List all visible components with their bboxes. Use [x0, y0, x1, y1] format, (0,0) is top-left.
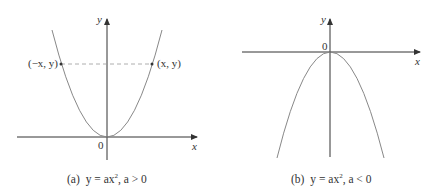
panel-a: (−x, y) (x, y) y x 0 (a) y = ax2, a > 0 [17, 13, 197, 186]
point-right-label: (x, y) [157, 57, 181, 70]
y-axis-label: y [320, 13, 326, 25]
x-axis-label: x [414, 55, 420, 67]
point-right [151, 63, 154, 66]
caption-b: (b) y = ax2, a < 0 [291, 172, 372, 186]
point-left-label: (−x, y) [28, 57, 58, 70]
origin-label: 0 [322, 40, 328, 52]
x-axis-label: x [191, 140, 197, 152]
diagram-canvas: (−x, y) (x, y) y x 0 (a) y = ax2, a > 0 … [0, 0, 425, 191]
y-axis-label: y [96, 13, 102, 25]
point-left [60, 63, 63, 66]
origin-label: 0 [98, 139, 104, 151]
caption-a: (a) y = ax2, a > 0 [67, 172, 147, 186]
panel-b: y x 0 (b) y = ax2, a < 0 [242, 13, 420, 186]
